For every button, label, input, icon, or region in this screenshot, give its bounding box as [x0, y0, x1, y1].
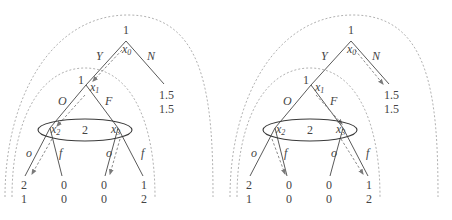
- action-x2-o-label: o: [251, 146, 257, 160]
- payoff-leaf1-p2: 1: [246, 192, 252, 206]
- payoff-leaf2-p1: 0: [286, 178, 292, 192]
- payoff-leaf3-p2: 0: [101, 192, 107, 206]
- action-N-label: N: [371, 49, 381, 63]
- info-set-player-label: 2: [82, 123, 88, 137]
- payoff-leaf3-p1: 0: [101, 178, 107, 192]
- payoff-N-p1: 1.5: [384, 88, 399, 102]
- edge-x3-f: [118, 128, 143, 176]
- payoff-leaf4-p2: 2: [141, 192, 147, 206]
- node-x1-label: x1: [89, 80, 99, 95]
- root-player-label: 1: [123, 23, 129, 37]
- action-x3-o-label: o: [106, 146, 112, 160]
- payoff-leaf2-p2: 0: [286, 192, 292, 206]
- game-tree-figure: 1 x0 Y N 1 x1 O F x2 2 x3 o f o f 1.5 1.…: [0, 0, 452, 220]
- payoff-leaf3-p1: 0: [326, 178, 332, 192]
- action-x2-o-label: o: [26, 146, 32, 160]
- game-tree-left: 1 x0 Y N 1 x1 O F x2 2 x3 o f o f 1.5 1.…: [5, 15, 213, 206]
- action-x3-o-label: o: [331, 146, 337, 160]
- action-x3-f-label: f: [141, 146, 146, 160]
- edge-Y: [86, 41, 126, 85]
- edge-N: [126, 41, 164, 84]
- node-x3-label: x3: [335, 122, 345, 137]
- payoff-leaf1-p1: 2: [246, 178, 252, 192]
- edge-x3-f: [343, 128, 368, 176]
- payoff-leaf1-p1: 2: [21, 178, 27, 192]
- payoff-leaf4-p2: 2: [366, 192, 372, 206]
- action-N-label: N: [146, 49, 156, 63]
- node-x0-label: x0: [121, 42, 131, 57]
- edge-Y: [311, 41, 351, 85]
- action-F-label: F: [104, 94, 113, 108]
- x1-player-label: 1: [303, 73, 309, 87]
- payoff-N-p2: 1.5: [384, 102, 399, 116]
- payoff-leaf2-p2: 0: [61, 192, 67, 206]
- info-set-player-label: 2: [307, 123, 313, 137]
- action-O-label: O: [283, 94, 292, 108]
- action-x3-f-label: f: [366, 146, 371, 160]
- action-Y-label: Y: [321, 49, 329, 63]
- payoff-N-p1: 1.5: [159, 88, 174, 102]
- node-x0-label: x0: [346, 42, 356, 57]
- game-tree-right: 1 x0 Y N 1 x1 O F x2 2 x3 o f o f 1.5 1.…: [230, 15, 438, 206]
- payoff-leaf1-p2: 1: [21, 192, 27, 206]
- node-x2-label: x2: [275, 122, 285, 137]
- edge-N: [351, 41, 389, 84]
- payoff-N-p2: 1.5: [159, 102, 174, 116]
- action-O-label: O: [58, 94, 67, 108]
- payoff-leaf4-p1: 1: [366, 178, 372, 192]
- x1-player-label: 1: [78, 73, 84, 87]
- action-F-label: F: [329, 94, 338, 108]
- node-x2-label: x2: [50, 122, 60, 137]
- node-x3-label: x3: [110, 122, 120, 137]
- action-x2-f-label: f: [59, 146, 64, 160]
- payoff-leaf3-p2: 0: [326, 192, 332, 206]
- payoff-leaf4-p1: 1: [141, 178, 147, 192]
- node-x1-label: x1: [314, 80, 324, 95]
- payoff-leaf2-p1: 0: [61, 178, 67, 192]
- root-player-label: 1: [348, 23, 354, 37]
- action-x2-f-label: f: [284, 146, 289, 160]
- action-Y-label: Y: [96, 49, 104, 63]
